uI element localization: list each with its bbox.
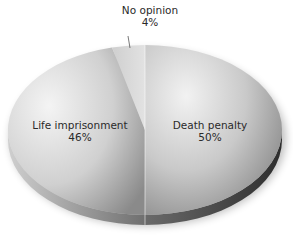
label-death-penalty-pct: 50% <box>160 131 260 143</box>
label-life-imprisonment: Life imprisonment 46% <box>20 119 140 143</box>
label-life-imprisonment-pct: 46% <box>20 131 140 143</box>
label-death-penalty-name: Death penalty <box>160 119 260 131</box>
label-life-imprisonment-name: Life imprisonment <box>20 119 140 131</box>
label-death-penalty: Death penalty 50% <box>160 119 260 143</box>
label-no-opinion-name: No opinion <box>100 4 200 16</box>
label-no-opinion-pct: 4% <box>100 16 200 28</box>
label-no-opinion: No opinion 4% <box>100 4 200 28</box>
pie-chart <box>0 0 293 236</box>
